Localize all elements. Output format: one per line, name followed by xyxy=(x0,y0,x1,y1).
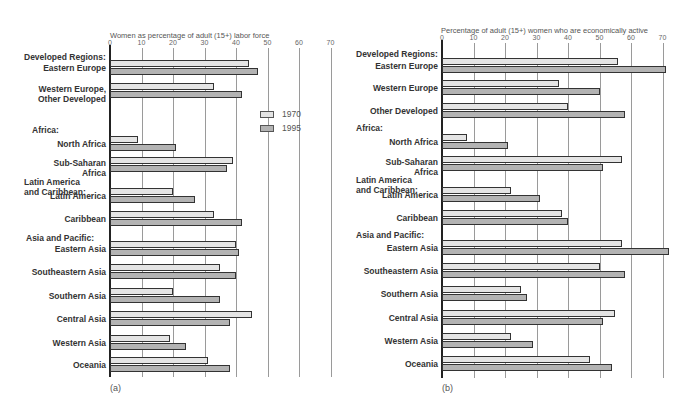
x-tick-label: 30 xyxy=(533,34,541,41)
category-label: Sub-Saharan Africa xyxy=(386,157,438,177)
bar-1995 xyxy=(442,364,612,371)
bar-1970 xyxy=(442,80,559,87)
category-label: Caribbean xyxy=(396,213,438,223)
gridline xyxy=(600,43,601,378)
bar-1995 xyxy=(442,66,666,73)
bar-1995 xyxy=(442,248,669,255)
bar-1970 xyxy=(442,240,622,247)
bar-1995 xyxy=(442,318,603,325)
gridline xyxy=(631,43,632,378)
bar-1970 xyxy=(442,156,622,163)
bar-1995 xyxy=(442,164,603,171)
bar-1970 xyxy=(442,187,511,194)
x-tick-label: 60 xyxy=(627,34,635,41)
chart-panel-b: Percentage of adult (15+) women who are … xyxy=(0,0,689,412)
category-label: Central Asia xyxy=(389,313,438,323)
category-label: Southern Asia xyxy=(381,289,438,299)
category-label: Eastern Asia xyxy=(387,243,438,253)
group-label-africa-b: Africa: xyxy=(356,123,383,133)
x-tick-label: 70 xyxy=(659,34,667,41)
category-label: Southeastern Asia xyxy=(364,266,438,276)
group-label-developed-b: Developed Regions: xyxy=(356,49,438,59)
bar-1995 xyxy=(442,271,625,278)
bar-1970 xyxy=(442,286,521,293)
bar-1995 xyxy=(442,111,625,118)
category-label: Western Europe xyxy=(373,83,438,93)
x-tick-label: 40 xyxy=(564,34,572,41)
bar-1970 xyxy=(442,310,615,317)
category-label: Western Asia xyxy=(385,336,438,346)
bar-1970 xyxy=(442,263,600,270)
bar-1995 xyxy=(442,341,533,348)
bar-1995 xyxy=(442,294,527,301)
bar-1970 xyxy=(442,356,590,363)
category-label: Oceania xyxy=(405,359,438,369)
category-label: Other Developed xyxy=(370,106,438,116)
category-label: Eastern Europe xyxy=(375,61,438,71)
x-tick-label: 10 xyxy=(470,34,478,41)
bar-1970 xyxy=(442,210,562,217)
category-label: Latin America xyxy=(382,190,438,200)
group-label-asia-b: Asia and Pacific: xyxy=(356,230,424,240)
bar-1970 xyxy=(442,103,568,110)
category-label: North Africa xyxy=(389,137,438,147)
panel-label-b: (b) xyxy=(442,383,453,393)
bar-1995 xyxy=(442,218,568,225)
bar-1995 xyxy=(442,195,540,202)
x-tick-label: 20 xyxy=(501,34,509,41)
bar-1970 xyxy=(442,134,467,141)
bar-1995 xyxy=(442,88,600,95)
bar-1995 xyxy=(442,142,508,149)
x-tick-label: 50 xyxy=(596,34,604,41)
gridline xyxy=(663,43,664,378)
bar-1970 xyxy=(442,58,618,65)
bar-1970 xyxy=(442,333,511,340)
